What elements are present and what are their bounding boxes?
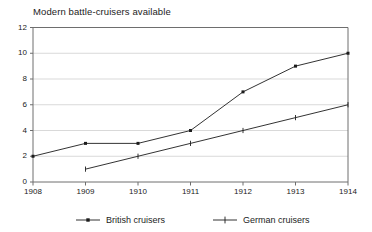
data-point-marker	[137, 142, 140, 145]
series-line-german	[86, 105, 349, 169]
data-point-marker	[242, 90, 245, 93]
x-axis-tick-label: 1913	[276, 188, 316, 196]
y-axis-tick-label: 0	[5, 178, 27, 186]
y-axis-tick-label: 10	[5, 49, 27, 57]
x-axis-tick-label: 1911	[171, 188, 211, 196]
legend-label-german: German cruisers	[243, 215, 310, 225]
legend-key-british-icon	[75, 215, 101, 225]
data-point-marker	[189, 129, 192, 132]
x-axis-tick-label: 1908	[13, 188, 53, 196]
legend-key-german-icon	[212, 215, 238, 225]
y-axis-tick-label: 2	[5, 152, 27, 160]
chart-container: Modern battle-cruisers available 0246810…	[0, 0, 372, 232]
x-axis-tick-label: 1910	[118, 188, 158, 196]
plot-area	[0, 0, 372, 232]
y-axis-tick-label: 12	[5, 24, 27, 32]
legend-label-british: British cruisers	[106, 215, 165, 225]
legend-item-german[interactable]: German cruisers	[212, 213, 310, 227]
gridlines	[33, 28, 348, 157]
y-axis-tick-label: 6	[5, 101, 27, 109]
legend-item-british[interactable]: British cruisers	[75, 213, 165, 227]
data-point-marker	[347, 52, 350, 55]
y-axis-tick-label: 4	[5, 127, 27, 135]
y-axis-tick-label: 8	[5, 75, 27, 83]
x-axis-tick-label: 1909	[66, 188, 106, 196]
data-point-marker	[294, 65, 297, 68]
x-axis-tick-label: 1912	[223, 188, 263, 196]
data-series-layer	[32, 52, 350, 172]
data-point-marker	[84, 142, 87, 145]
chart-legend: British cruisers German cruisers	[0, 213, 372, 227]
x-axis-tick-label: 1914	[328, 188, 368, 196]
data-point-marker	[32, 155, 35, 158]
x-axis-ticks	[33, 182, 348, 186]
